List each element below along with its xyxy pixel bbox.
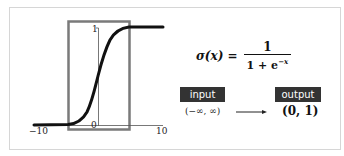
formula-numerator: 1 [260,40,274,54]
input-range: (−∞, ∞) [185,106,220,116]
x-max-label: 10 [156,126,168,136]
output-range: (0, 1) [282,104,318,118]
denominator-exponent: −x [278,57,288,66]
y-max-label: 1 [92,24,98,34]
output-label: output [275,87,321,102]
formula-lhs: σ(x) = [196,49,238,63]
formula-fraction: 1 1 + e−x [244,40,292,73]
denominator-base: 1 + e [247,59,279,72]
sigmoid-formula: σ(x) = 1 1 + e−x [196,40,291,73]
y-min-label: 0 [91,120,97,130]
formula-denominator: 1 + e−x [244,54,292,73]
x-min-label: −10 [29,126,48,136]
input-label: input [180,87,225,102]
sigmoid-plot: −10 10 1 0 [0,0,344,156]
